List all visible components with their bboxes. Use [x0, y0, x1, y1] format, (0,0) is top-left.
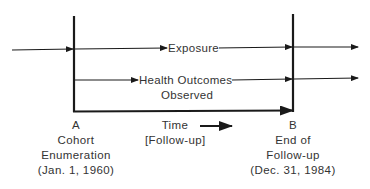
point-b-line3: (Dec. 31, 1984) [241, 163, 345, 178]
outcomes-arrow-2 [232, 79, 292, 80]
exposure-arrow-2 [216, 47, 292, 48]
point-b-label: B End of Follow-up (Dec. 31, 1984) [241, 118, 345, 178]
time-label-line2: [Follow-up] [145, 133, 205, 148]
point-b-letter: B [241, 118, 345, 133]
point-a-line3: (Jan. 1, 1960) [24, 163, 128, 178]
time-label: Time [Follow-up] [145, 118, 205, 148]
exposure-label: Exposure [168, 41, 219, 55]
point-a-label: A Cohort Enumeration (Jan. 1, 1960) [24, 118, 128, 178]
followup-baseline [73, 111, 293, 112]
exposure-pre-arrow [12, 49, 73, 50]
point-b-line1: End of [241, 133, 345, 148]
exposure-arrow-1 [75, 48, 167, 49]
outcomes-post-arrow [294, 78, 358, 79]
point-b-line2: Follow-up [241, 148, 345, 163]
point-a-letter: A [24, 118, 128, 133]
outcomes-label-line2: Observed [161, 88, 213, 102]
point-a-line2: Enumeration [24, 148, 128, 163]
time-label-line1: Time [145, 118, 205, 133]
point-a-line1: Cohort [24, 133, 128, 148]
outcomes-label-line1: Health Outcomes [139, 73, 232, 87]
